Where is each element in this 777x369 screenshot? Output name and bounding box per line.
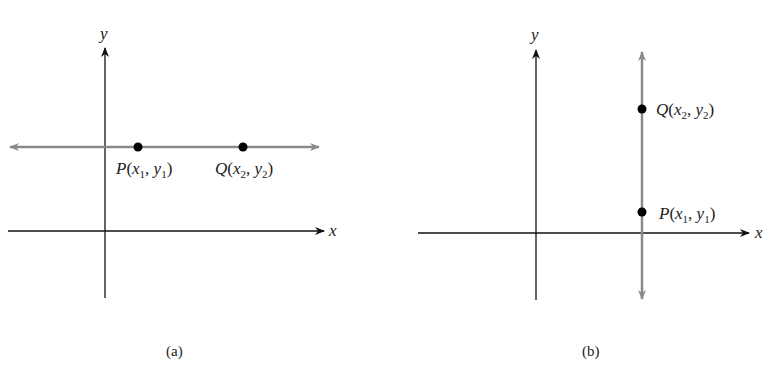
figure-a: x y P(x1, y1) Q(x2, y2) (a) bbox=[8, 24, 337, 360]
point-p-label-a: P(x1, y1) bbox=[115, 159, 172, 180]
x-axis-label-b: x bbox=[754, 223, 763, 242]
caption-b: (b) bbox=[582, 343, 600, 360]
caption-a: (a) bbox=[166, 343, 183, 360]
point-q-label-a: Q(x2, y2) bbox=[215, 159, 273, 180]
point-q-label-b: Q(x2, y2) bbox=[656, 100, 714, 121]
figure-canvas: x y P(x1, y1) Q(x2, y2) (a) x y Q(x2, y2… bbox=[0, 0, 777, 369]
point-q-b bbox=[638, 105, 647, 114]
y-axis-label-b: y bbox=[529, 25, 539, 44]
y-axis-label-a: y bbox=[98, 24, 108, 43]
point-p-b bbox=[638, 208, 647, 217]
point-p-a bbox=[134, 143, 143, 152]
figure-b: x y Q(x2, y2) P(x1, y1) (b) bbox=[418, 25, 763, 360]
point-p-label-b: P(x1, y1) bbox=[658, 204, 715, 225]
x-axis-label-a: x bbox=[328, 221, 337, 240]
point-q-a bbox=[239, 143, 248, 152]
